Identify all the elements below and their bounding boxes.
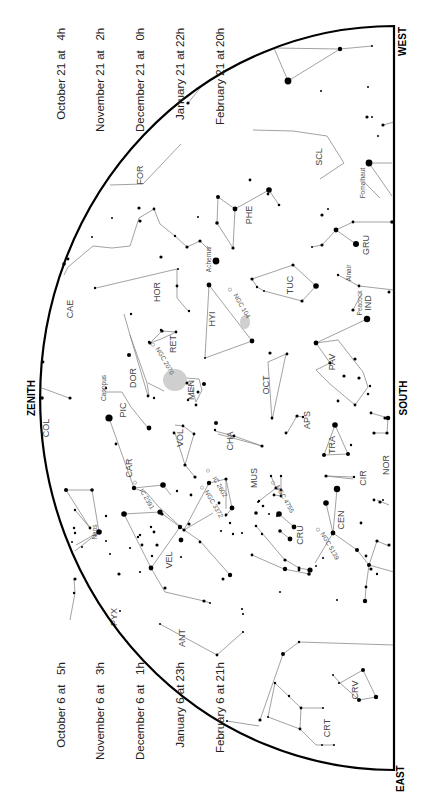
star [353, 476, 355, 478]
constellation-line [187, 241, 200, 247]
star [178, 525, 182, 529]
star [298, 569, 301, 572]
star [279, 591, 281, 593]
star [313, 283, 319, 289]
constellation-line [359, 697, 376, 700]
star [147, 426, 152, 431]
star [190, 494, 193, 497]
constellation-line [355, 387, 368, 405]
star [263, 290, 265, 292]
constellation-line [42, 388, 69, 398]
star [197, 391, 200, 394]
star [365, 555, 368, 558]
star [250, 339, 255, 344]
constellation-line [75, 510, 90, 528]
star-name-label: Naos [91, 524, 98, 540]
star [74, 532, 76, 534]
star [273, 494, 276, 497]
deep-sky-label: NGC 104 [232, 292, 252, 319]
star [71, 541, 73, 543]
constellation-label: MUS [249, 468, 259, 488]
constellation-line [293, 265, 316, 286]
time-row: December 6 at 1h [134, 662, 147, 760]
cluster-marker-icon [151, 343, 154, 346]
star [300, 707, 303, 710]
star [342, 374, 345, 377]
horizon-outline [40, 26, 394, 770]
star [354, 404, 357, 407]
star [357, 376, 360, 379]
time-row: November 6 at 3h [94, 662, 107, 760]
constellation-line [185, 378, 199, 379]
star [198, 239, 201, 242]
star [139, 571, 141, 573]
constellation-line [257, 287, 264, 291]
star [336, 599, 338, 601]
star [159, 623, 161, 625]
star [387, 543, 390, 546]
star [174, 235, 176, 237]
star [361, 668, 365, 672]
star [177, 268, 179, 270]
star [338, 47, 342, 51]
star [314, 341, 319, 346]
star [321, 744, 323, 746]
constellation-line [279, 514, 294, 527]
constellation-label: SCL [314, 148, 324, 166]
constellation-label: TUC [285, 275, 295, 294]
constellation-line [199, 379, 202, 390]
star [160, 512, 163, 515]
constellation-line [217, 632, 243, 655]
star [204, 357, 206, 359]
star [333, 744, 335, 746]
constellation-line [268, 717, 300, 729]
star [160, 482, 166, 488]
star [176, 285, 179, 288]
star [109, 553, 111, 555]
star [258, 718, 261, 721]
constellation-line [66, 490, 90, 528]
star [372, 431, 375, 434]
star [183, 463, 186, 466]
star-name-label: Alnair [345, 264, 352, 281]
star [241, 532, 243, 534]
constellation-line [124, 514, 151, 568]
constellation-line [369, 163, 392, 196]
constellation-line [274, 48, 340, 49]
constellation-label: HOR [152, 282, 162, 303]
star [91, 236, 93, 238]
constellation-line [336, 222, 353, 230]
star [388, 291, 391, 294]
star [385, 431, 388, 434]
star [199, 541, 202, 544]
star [250, 277, 253, 280]
constellation-line [160, 624, 217, 655]
constellation-line [293, 131, 327, 136]
star [360, 522, 363, 525]
star [90, 488, 94, 492]
star [175, 331, 178, 334]
constellation-line [96, 269, 177, 288]
star [334, 228, 339, 233]
star [300, 299, 303, 302]
star [378, 500, 381, 503]
constellation-label: CRV [350, 681, 360, 700]
direction-east: EAST [395, 765, 406, 792]
constellation-label: ANT [177, 628, 187, 647]
constellation-line [175, 236, 187, 247]
star [105, 515, 107, 517]
star [370, 412, 373, 415]
star [320, 243, 323, 246]
star [251, 554, 254, 557]
constellation-label: CAE [65, 300, 75, 319]
star [64, 488, 68, 492]
star [73, 527, 75, 529]
star [256, 286, 258, 288]
star [324, 474, 327, 477]
constellation-line [369, 565, 394, 572]
constellation-line [177, 298, 189, 312]
constellation-line [139, 209, 154, 218]
star [163, 586, 166, 589]
star [322, 557, 324, 559]
deep-sky-label: IC 2391 [138, 487, 156, 511]
